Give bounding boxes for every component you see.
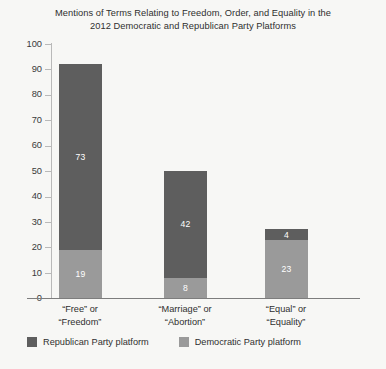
x-category-label-equal-equality: “Equal” or “Equality” xyxy=(226,303,346,328)
legend-label: Democratic Party platform xyxy=(195,337,301,347)
bar-segment-republican[interactable]: 4 xyxy=(265,229,308,239)
x-category-label-line-1: “Free” or xyxy=(20,303,140,316)
legend-item-democratic[interactable]: Democratic Party platform xyxy=(179,337,301,347)
bar-segment-republican[interactable]: 42 xyxy=(164,171,207,278)
y-tick-label-50: 50 xyxy=(0,167,42,176)
bar-segment-democratic[interactable]: 8 xyxy=(164,278,207,298)
bar-segment-democratic[interactable]: 19 xyxy=(59,250,102,298)
y-tick-label-60: 60 xyxy=(0,141,42,150)
x-category-label-line-2: “Freedom” xyxy=(20,316,140,329)
chart-title-line-1: Mentions of Terms Relating to Freedom, O… xyxy=(22,7,364,20)
y-tick-label-20: 20 xyxy=(0,243,42,252)
y-tick-label-40: 40 xyxy=(0,192,42,201)
bar-segment-democratic[interactable]: 23 xyxy=(265,240,308,298)
x-axis-line xyxy=(27,298,360,299)
y-tick-label-80: 80 xyxy=(0,90,42,99)
chart-title-line-2: 2012 Democratic and Republican Party Pla… xyxy=(22,20,364,33)
bar-group-marriage-abortion[interactable]: 42 8 xyxy=(164,171,207,298)
bar-group-equal-equality[interactable]: 4 23 xyxy=(265,229,308,298)
y-tick-label-100: 100 xyxy=(0,40,42,49)
chart-legend: Republican Party platform Democratic Par… xyxy=(27,337,331,347)
y-tick-label-90: 90 xyxy=(0,65,42,74)
legend-swatch-icon xyxy=(27,337,37,347)
chart-title: Mentions of Terms Relating to Freedom, O… xyxy=(22,7,364,33)
legend-label: Republican Party platform xyxy=(43,337,149,347)
y-tick-label-30: 30 xyxy=(0,218,42,227)
chart-figure: Mentions of Terms Relating to Freedom, O… xyxy=(0,0,386,369)
y-tick-label-10: 10 xyxy=(0,269,42,278)
plot-area: 73 19 42 8 4 23 xyxy=(51,44,360,298)
x-category-label-line-2: “Equality” xyxy=(226,316,346,329)
bar-group-free-freedom[interactable]: 73 19 xyxy=(59,64,102,298)
x-category-label-free-freedom: “Free” or “Freedom” xyxy=(20,303,140,328)
x-category-label-line-1: “Equal” or xyxy=(226,303,346,316)
legend-item-republican[interactable]: Republican Party platform xyxy=(27,337,149,347)
legend-swatch-icon xyxy=(179,337,189,347)
y-tick-label-70: 70 xyxy=(0,116,42,125)
bar-segment-republican[interactable]: 73 xyxy=(59,64,102,249)
